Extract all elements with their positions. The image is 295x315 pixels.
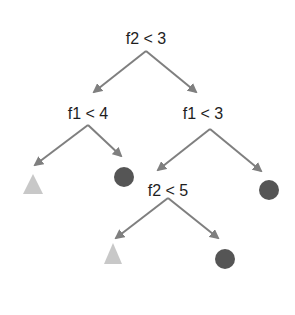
node-root-label: f2 < 3: [126, 30, 167, 47]
edge-rl-left: [116, 198, 168, 238]
edge-right-right: [210, 129, 261, 171]
leaf-triangle-icon: [104, 243, 122, 264]
edge-rl-right: [168, 198, 218, 238]
leaf-triangle-icon: [23, 174, 43, 194]
node-right-left-label: f2 < 5: [148, 182, 189, 199]
edge-root-right: [146, 51, 196, 92]
edge-left-left: [35, 125, 88, 165]
leaf-circle-icon: [259, 180, 279, 200]
node-left-label: f1 < 4: [68, 105, 109, 122]
leaf-circle-icon: [114, 167, 134, 187]
node-right-label: f1 < 3: [183, 105, 224, 122]
decision-tree-diagram: f2 < 3 f1 < 4 f1 < 3 f2 < 5: [0, 0, 295, 315]
edge-root-left: [94, 51, 146, 92]
edge-left-right: [88, 125, 121, 156]
leaf-circle-icon: [215, 249, 235, 269]
edge-right-left: [158, 129, 210, 170]
